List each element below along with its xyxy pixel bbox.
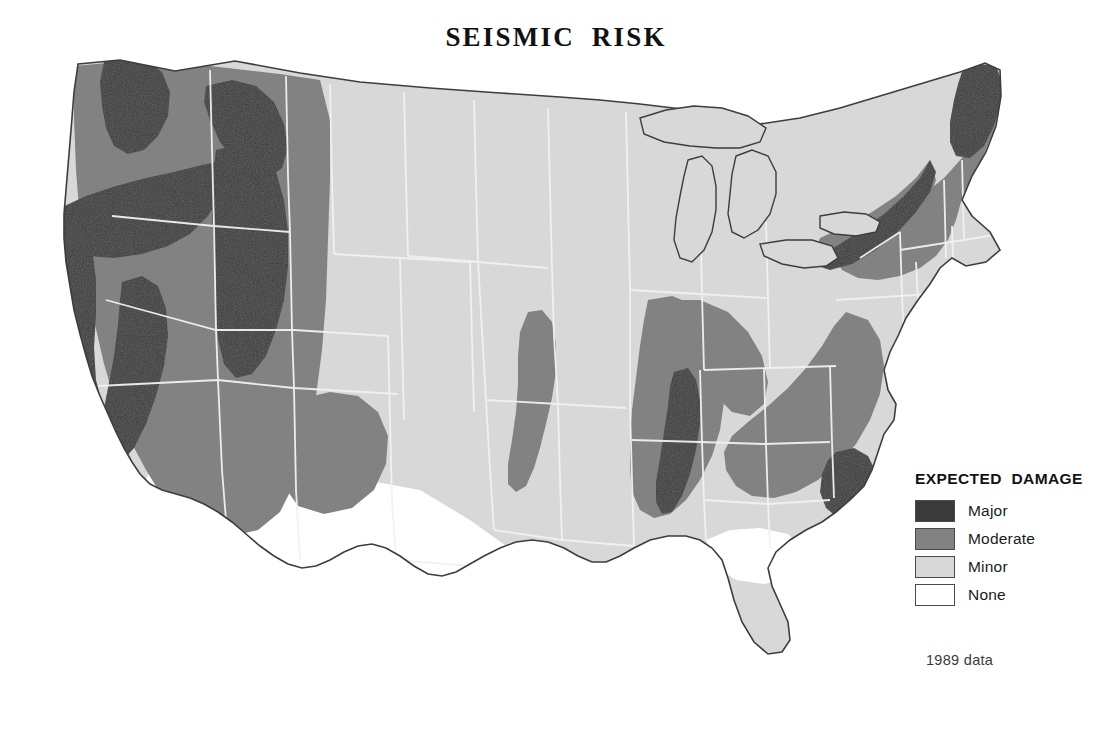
legend-item-moderate[interactable]: Moderate	[915, 525, 1100, 552]
zone-none-florida	[806, 548, 886, 660]
seismic-risk-map	[0, 0, 1112, 733]
legend-item-none[interactable]: None	[915, 581, 1100, 608]
legend: EXPECTED DAMAGE Major Moderate Minor Non…	[915, 470, 1100, 609]
legend-swatch-major	[915, 500, 955, 522]
legend-label-major: Major	[968, 502, 1008, 520]
legend-label-none: None	[968, 586, 1006, 604]
legend-item-major[interactable]: Major	[915, 497, 1100, 524]
legend-item-minor[interactable]: Minor	[915, 553, 1100, 580]
legend-swatch-none	[915, 584, 955, 606]
legend-swatch-minor	[915, 556, 955, 578]
legend-swatch-moderate	[915, 528, 955, 550]
zone-none-gulf-coast	[706, 528, 804, 584]
legend-label-moderate: Moderate	[968, 530, 1035, 548]
data-year-note: 1989 data	[926, 652, 993, 668]
legend-label-minor: Minor	[968, 558, 1008, 576]
legend-title: EXPECTED DAMAGE	[915, 470, 1100, 488]
